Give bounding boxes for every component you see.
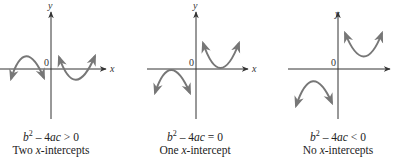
parabola-up-tangent <box>203 43 239 68</box>
y-axis-label: y <box>334 8 340 19</box>
origin-label: 0 <box>44 57 49 68</box>
parabola-down-below <box>296 81 332 106</box>
discriminant-condition: b2 – 4ac = 0 <box>130 127 260 144</box>
caption-no-intercepts: b2 – 4ac < 0 No x-intercepts <box>273 127 393 157</box>
parabola-down-tangent <box>155 70 190 93</box>
intercept-description: No x-intercepts <box>273 144 393 157</box>
y-axis-label: y <box>47 0 53 11</box>
discriminant-condition: b2 – 4ac < 0 <box>273 127 393 144</box>
intercept-description: One x-intercept <box>130 144 260 157</box>
caption-one-intercept: b2 – 4ac = 0 One x-intercept <box>130 127 260 157</box>
x-axis-label: x <box>109 63 115 74</box>
graph-two-intercepts <box>0 12 106 119</box>
origin-label: 0 <box>331 57 336 68</box>
x-axis-label: x <box>251 63 257 74</box>
parabola-up <box>59 56 95 80</box>
caption-two-intercepts: b2 – 4ac > 0 Two x-intercepts <box>0 127 116 157</box>
parabola-up-above <box>345 33 382 57</box>
graph-no-intercepts <box>288 12 390 119</box>
y-axis-label: y <box>192 0 198 11</box>
origin-label: 0 <box>189 57 194 68</box>
intercept-description: Two x-intercepts <box>0 144 116 157</box>
parabola-down <box>11 56 44 79</box>
discriminant-condition: b2 – 4ac > 0 <box>0 127 116 144</box>
graph-one-intercept <box>147 12 248 119</box>
